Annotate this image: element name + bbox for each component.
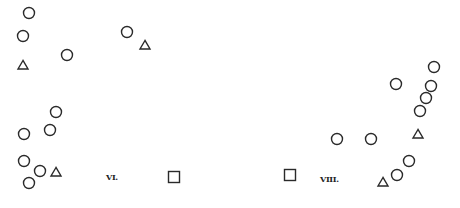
shape-diagram: VI.VIII. xyxy=(0,0,460,208)
circle-marker xyxy=(426,81,437,92)
circle-marker xyxy=(19,156,30,167)
circle-marker xyxy=(332,134,343,145)
circle-marker xyxy=(415,106,426,117)
circle-marker xyxy=(62,50,73,61)
figure-label: VI. xyxy=(106,173,118,181)
circle-marker xyxy=(391,79,402,90)
circle-marker xyxy=(24,8,35,19)
circle-marker xyxy=(404,156,415,167)
circle-marker xyxy=(45,125,56,136)
circle-marker xyxy=(429,62,440,73)
triangle-marker xyxy=(140,41,150,50)
circle-marker xyxy=(19,129,30,140)
shapes-layer xyxy=(0,0,460,208)
triangle-marker xyxy=(18,61,28,70)
square-marker xyxy=(169,172,180,183)
circle-marker xyxy=(122,27,133,38)
circle-marker xyxy=(18,31,29,42)
triangle-marker xyxy=(378,178,388,187)
circle-marker xyxy=(366,134,377,145)
circle-marker xyxy=(24,178,35,189)
figure-label: VIII. xyxy=(320,175,339,183)
triangle-marker xyxy=(51,168,61,177)
circle-marker xyxy=(35,166,46,177)
triangle-marker xyxy=(413,130,423,139)
square-marker xyxy=(285,170,296,181)
circle-marker xyxy=(392,170,403,181)
circle-marker xyxy=(51,107,62,118)
circle-marker xyxy=(421,93,432,104)
